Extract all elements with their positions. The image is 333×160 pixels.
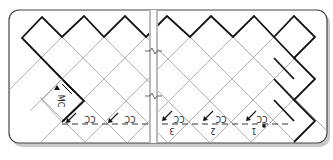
svg-text:CC: CC [124, 114, 136, 123]
c2c-chart-diagram: MC CC CC CC 3 CC 2 [0, 0, 333, 160]
svg-text:2: 2 [210, 126, 215, 135]
mc-label: MC [56, 95, 65, 108]
svg-text:CC: CC [173, 114, 185, 123]
chart-frame [9, 10, 327, 143]
svg-text:CC: CC [256, 114, 268, 123]
svg-text:1: 1 [251, 126, 256, 135]
svg-text:CC: CC [84, 114, 96, 123]
svg-text:3: 3 [169, 126, 174, 135]
start-dot-icon [262, 124, 266, 128]
svg-text:CC: CC [215, 114, 227, 123]
